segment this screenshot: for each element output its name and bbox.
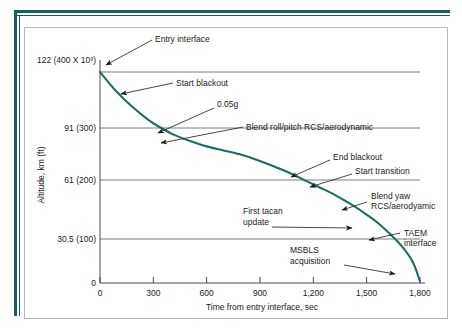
annotation-entry-interface-label: Entry interface — [155, 34, 210, 44]
x-tick-label-1500: 1,500 — [356, 288, 378, 298]
x-tick-marks — [100, 277, 420, 283]
x-tick-label-900: 900 — [253, 288, 267, 298]
entry-trajectory-curve — [100, 72, 420, 281]
y-tick-label-0: 0 — [91, 278, 96, 288]
annotation-blend-roll-pitch-label: Blend roll/pitch RCS/aerodynamic — [246, 122, 374, 132]
y-axis-title: Altitude, km (ft) — [36, 146, 46, 203]
figure-page: 122 (400 X 10³) 91 (300) 61 (200) 30.5 (… — [0, 0, 462, 333]
y-tick-label-91: 91 (300) — [64, 123, 96, 133]
altitude-vs-time-chart: 122 (400 X 10³) 91 (300) 61 (200) 30.5 (… — [0, 0, 462, 333]
annotation-msbls-label-line2: acquisition — [290, 256, 330, 266]
x-tick-label-600: 600 — [200, 288, 214, 298]
y-tick-label-122: 122 (400 X 10³) — [37, 55, 96, 65]
annotation-taem-label-line2: interface — [404, 238, 437, 248]
annotation-blend-yaw-label-line1: Blend yaw — [371, 191, 411, 201]
annotation-taem-label-line1: TAEM — [404, 228, 427, 238]
annotation-start-transition-label: Start transition — [355, 166, 410, 176]
annotation-0-05g-label: 0.05g — [217, 99, 239, 109]
annotation-blend-yaw-label-line2: RCS/aerodyamic — [371, 201, 436, 211]
annotation-start-blackout-label: Start blackout — [176, 78, 229, 88]
x-tick-label-0: 0 — [98, 288, 103, 298]
annotation-end-blackout-label: End blackout — [333, 152, 383, 162]
y-tick-label-61: 61 (200) — [64, 175, 96, 185]
annotation-msbls-label-line1: MSBLS — [290, 245, 319, 255]
x-tick-label-1200: 1,200 — [303, 288, 325, 298]
annotation-first-tacan-label-line2: update — [243, 217, 269, 227]
annotation-entry-interface: Entry interface — [106, 34, 210, 65]
annotation-blend-roll-pitch: Blend roll/pitch RCS/aerodynamic — [161, 122, 374, 143]
annotation-first-tacan-label-line1: First tacan — [243, 206, 283, 216]
annotation-msbls-acquisition: MSBLS acquisition — [290, 245, 395, 274]
annotation-start-transition: Start transition — [310, 166, 410, 187]
y-tick-label-30-5: 30.5 (100) — [57, 234, 96, 244]
x-tick-label-1800: 1,800 — [409, 288, 431, 298]
x-tick-label-300: 300 — [146, 288, 160, 298]
annotation-taem-interface: TAEM interface — [369, 228, 437, 248]
x-axis-title: Time from entry interface, sec — [206, 302, 319, 312]
annotation-first-tacan-update: First tacan update — [243, 206, 352, 228]
annotation-start-blackout: Start blackout — [121, 78, 229, 94]
